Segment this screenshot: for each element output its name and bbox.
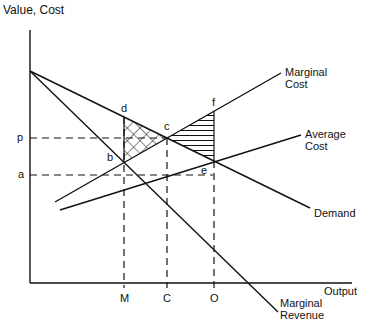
point-d: d	[121, 102, 127, 114]
point-c: c	[164, 120, 170, 132]
tick-C: C	[163, 292, 171, 304]
demand-curve	[30, 71, 310, 208]
point-f: f	[212, 96, 215, 108]
average-cost-curve	[60, 135, 301, 210]
marginal-revenue-curve	[30, 71, 278, 312]
tick-p: p	[17, 131, 23, 143]
area-cef	[167, 111, 214, 161]
tick-a: a	[18, 168, 24, 180]
economics-diagram	[0, 0, 366, 328]
marginal-cost-label: Marginal Cost	[285, 66, 327, 90]
tick-O: O	[210, 292, 219, 304]
marginal-revenue-label: Marginal Revenue	[280, 297, 324, 321]
average-cost-label: Average Cost	[305, 128, 346, 152]
marginal-cost-curve	[55, 73, 281, 202]
x-axis-label: Output	[324, 285, 357, 297]
tick-M: M	[120, 292, 129, 304]
point-e: e	[201, 164, 207, 176]
deadweight-area-bcd	[124, 117, 167, 162]
y-axis-label: Value, Cost	[3, 4, 64, 16]
demand-label: Demand	[314, 207, 356, 219]
point-b: b	[107, 151, 113, 163]
